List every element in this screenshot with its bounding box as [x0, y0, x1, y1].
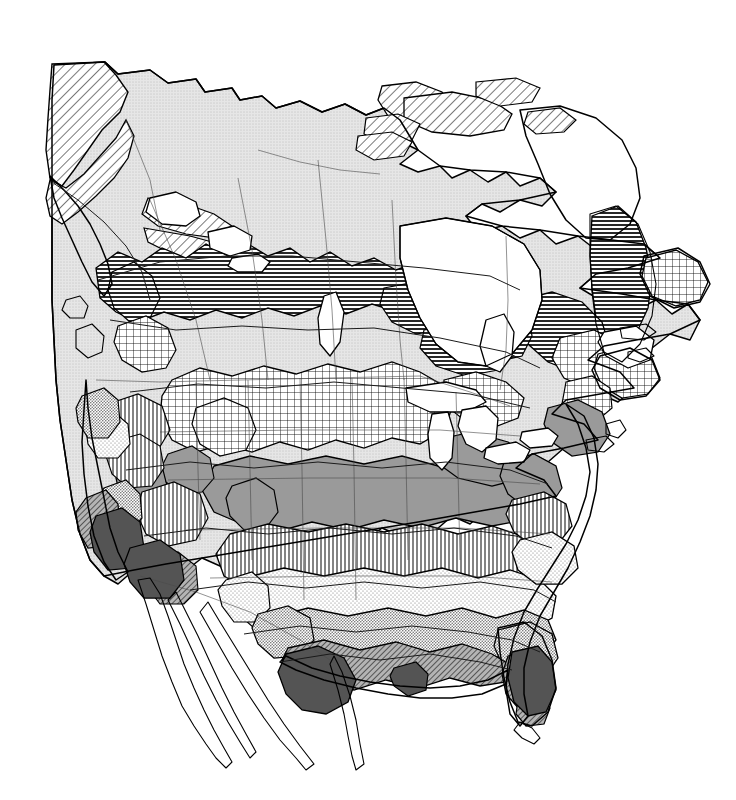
lake-ontario-water — [520, 428, 558, 448]
north-america-hardiness-zone-map — [0, 0, 736, 800]
cape-cod-coast — [606, 420, 626, 438]
hardiness-zone-map-root: Plant Hardiness Zone Map of North Americ… — [0, 0, 736, 800]
baja-california-outline — [138, 578, 232, 768]
zone-1-baffin-north-tip — [524, 108, 576, 134]
